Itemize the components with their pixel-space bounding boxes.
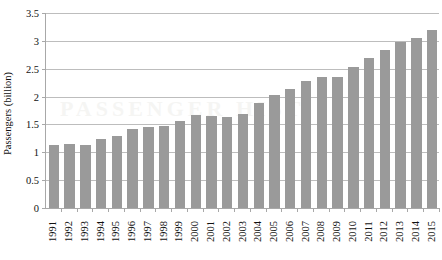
x-axis-tick-label-text: 2009 [331,221,342,242]
x-axis-tick-label-text: 2005 [268,221,279,242]
x-axis-tick-label-text: 1993 [79,221,90,242]
x-axis-tick-label-text: 1996 [126,221,137,242]
x-axis-tick-label-text: 1991 [47,221,58,242]
x-axis-tick-label: 1992 [62,212,76,256]
bar [332,77,342,208]
bar [222,117,232,208]
x-axis-tick-label: 1993 [77,212,91,256]
y-axis-tick-label: 0.5 [26,175,39,186]
x-axis-tick-label-text: 2002 [221,221,232,242]
x-axis-tick-label: 2010 [345,212,359,256]
x-axis-tick-label-text: 2008 [315,221,326,242]
x-axis-tick-label-text: 2014 [410,221,421,242]
x-axis-tick-label: 2009 [330,212,344,256]
bar [49,145,59,208]
x-axis-tick-label: 2014 [408,212,422,256]
x-axis-tick-label: 2007 [298,212,312,256]
x-axis-tick-label-text: 1994 [95,221,106,242]
x-axis-tick-label: 2002 [219,212,233,256]
x-axis-tick-label: 2005 [267,212,281,256]
bar [254,103,264,208]
bar [269,95,279,208]
x-axis-tick-label: 1994 [93,212,107,256]
bar [112,136,122,208]
x-axis-tick-label: 2012 [377,212,391,256]
bar [301,81,311,208]
bar [348,67,358,208]
y-axis-title-text: Passengers (billion) [3,71,14,154]
x-axis-tick-label-text: 2000 [189,221,200,242]
plot-area [45,13,439,208]
x-axis-tick-label: 2004 [251,212,265,256]
bar [80,145,90,209]
x-axis-tick-label: 2011 [361,212,375,256]
x-axis-tick-label-text: 2011 [363,221,374,242]
bar [96,139,106,208]
bar [175,121,185,208]
x-axis-tick-label: 1998 [156,212,170,256]
x-axis-tick-label-text: 2007 [300,221,311,242]
x-axis-tick-label: 2003 [235,212,249,256]
x-axis-tick-label: 2013 [393,212,407,256]
x-axis-tick-label-text: 2015 [426,221,437,242]
x-axis-tick-label-text: 2001 [205,221,216,242]
bar [411,38,421,208]
x-axis-tick-labels: 1991199219931994199519961997199819992000… [45,212,439,258]
y-axis-title: Passengers (billion) [0,38,16,188]
y-axis-tick-label: 0 [34,203,39,214]
x-axis-tick-label: 1991 [46,212,60,256]
x-axis-tick-label-text: 1999 [173,221,184,242]
bar [380,50,390,208]
bar [395,42,405,208]
x-axis-tick-label-text: 1995 [110,221,121,242]
x-axis-tick-label-text: 1998 [158,221,169,242]
x-axis-tick-label: 1997 [140,212,154,256]
x-axis-tick-label-text: 2012 [378,221,389,242]
x-axis-tick-label: 2001 [203,212,217,256]
bar [159,126,169,208]
bar [427,30,437,208]
x-axis-tick-label: 2000 [188,212,202,256]
y-axis-tick-label: 1 [34,147,39,158]
bar [64,144,74,208]
bar [191,115,201,208]
bar [206,116,216,208]
bar [317,77,327,208]
x-axis-tick-label-text: 1992 [63,221,74,242]
y-axis-tick-label: 3 [34,35,39,46]
x-axis-tick-label-text: 2013 [394,221,405,242]
x-axis-tick-label: 1996 [125,212,139,256]
x-axis-tick-label: 2015 [424,212,438,256]
bars-layer [46,13,439,208]
bar [143,127,153,208]
x-axis-tick-label-text: 2003 [237,221,248,242]
x-axis-tick-label: 2006 [282,212,296,256]
bar [364,58,374,208]
bar [238,114,248,208]
bar [127,129,137,208]
y-axis-tick-labels: 00.511.522.533.5 [16,0,42,260]
x-axis-tick-label: 1999 [172,212,186,256]
x-axis-tick-mark [439,208,440,212]
bar-chart-figure: PASSENGER HISTORY Passengers (billion) 0… [0,0,442,260]
y-axis-tick-label: 2 [34,91,39,102]
x-axis-tick-label: 2008 [314,212,328,256]
bar [285,89,295,208]
x-axis-tick-label-text: 2004 [252,221,263,242]
x-axis-tick-label-text: 2010 [347,221,358,242]
x-axis-tick-label: 1995 [109,212,123,256]
y-axis-tick-label: 2.5 [26,63,39,74]
x-axis-tick-label-text: 1997 [142,221,153,242]
y-axis-tick-label: 1.5 [26,119,39,130]
x-axis-tick-label-text: 2006 [284,221,295,242]
y-axis-tick-label: 3.5 [26,8,39,19]
